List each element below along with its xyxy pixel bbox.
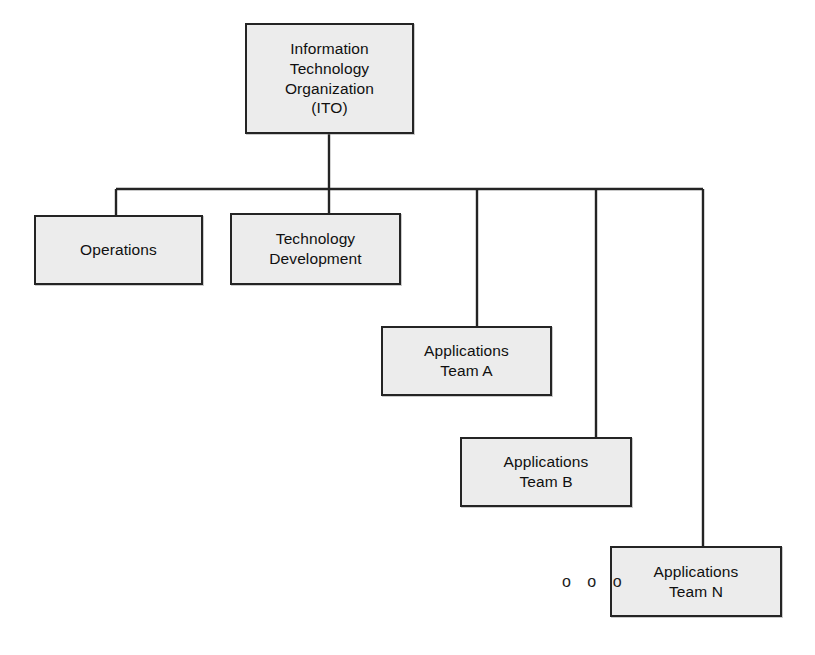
org-node-applications-team-n[interactable]: Applications Team N — [610, 546, 782, 617]
org-node-technology-development[interactable]: Technology Development — [230, 213, 401, 285]
org-chart-canvas: Information Technology Organization (ITO… — [0, 0, 815, 655]
org-node-applications-team-b[interactable]: Applications Team B — [460, 437, 632, 507]
org-node-applications-team-a[interactable]: Applications Team A — [381, 326, 552, 396]
org-node-operations[interactable]: Operations — [34, 215, 203, 285]
org-node-ito[interactable]: Information Technology Organization (ITO… — [245, 23, 414, 134]
ellipsis-more-teams-icon: o o o — [562, 574, 628, 590]
